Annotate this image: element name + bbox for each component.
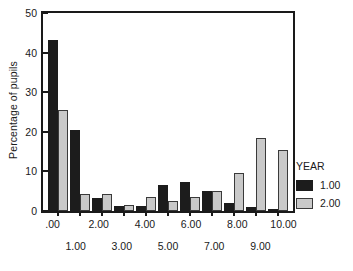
gray-swatch — [296, 198, 313, 209]
y-axis-tick-label: 20 — [3, 126, 43, 138]
bar-series-1-00 — [180, 182, 190, 211]
legend-entry: 2.00 — [296, 197, 353, 209]
y-axis-tick-label: 10 — [3, 165, 43, 177]
bar-groups — [43, 13, 293, 211]
bar-series-2-00 — [190, 197, 200, 211]
bar-series-1-00 — [202, 191, 212, 211]
x-axis-tick-label: 5.00 — [158, 240, 178, 252]
y-axis-tick-label: 50 — [3, 7, 43, 19]
bar-series-1-00 — [92, 198, 102, 211]
y-axis-tick-label: 40 — [3, 47, 43, 59]
x-axis-tick-labels: .001.002.003.004.005.006.007.008.009.001… — [41, 215, 295, 263]
x-axis-tick-label: .00 — [45, 218, 60, 230]
x-axis-tick-label: 4.00 — [135, 218, 155, 230]
plot-area: 01020304050 — [41, 11, 295, 213]
bar-series-2-00 — [124, 205, 134, 211]
bar-group — [113, 13, 135, 211]
bar-chart-figure: Percentage of pupils 01020304050 .001.00… — [0, 0, 353, 271]
bar-series-1-00 — [268, 209, 278, 211]
legend-entry-label: 2.00 — [320, 197, 340, 209]
x-axis-tick-label: 7.00 — [204, 240, 224, 252]
bar-group — [69, 13, 91, 211]
y-axis-tick-mark — [43, 91, 48, 93]
bar-group — [223, 13, 245, 211]
bar-series-1-00 — [48, 40, 58, 211]
bar-series-2-00 — [102, 194, 112, 211]
x-axis-tick-label: 1.00 — [65, 240, 85, 252]
x-axis-tick-label: 10.00 — [270, 218, 296, 230]
bar-series-2-00 — [58, 110, 68, 211]
bar-group — [245, 13, 267, 211]
legend-title: YEAR — [296, 160, 353, 172]
bar-series-1-00 — [224, 203, 234, 211]
legend: YEAR 1.002.00 — [296, 160, 353, 215]
bar-series-1-00 — [136, 206, 146, 211]
y-axis-tick-mark — [43, 131, 48, 133]
bar-series-2-00 — [168, 201, 178, 211]
bar-series-2-00 — [212, 191, 222, 211]
x-axis-tick-label: 6.00 — [181, 218, 201, 230]
legend-entry-label: 1.00 — [320, 179, 340, 191]
bar-series-1-00 — [70, 130, 80, 211]
y-axis-tick-mark — [43, 170, 48, 172]
bar-group — [135, 13, 157, 211]
bar-series-1-00 — [114, 206, 124, 211]
bar-group — [201, 13, 223, 211]
y-axis-tick-mark — [43, 210, 48, 212]
x-axis-tick-label: 3.00 — [112, 240, 132, 252]
bar-series-2-00 — [146, 197, 156, 211]
y-axis-tick-mark — [43, 12, 48, 14]
bar-group — [267, 13, 289, 211]
x-axis-tick-label: 2.00 — [89, 218, 109, 230]
bar-group — [179, 13, 201, 211]
bar-series-1-00 — [246, 207, 256, 211]
x-axis-tick-label: 9.00 — [250, 240, 270, 252]
bar-group — [91, 13, 113, 211]
legend-entries: 1.002.00 — [296, 179, 353, 209]
x-axis-tick-label: 8.00 — [227, 218, 247, 230]
y-axis-tick-label: 30 — [3, 86, 43, 98]
y-axis-tick-label: 0 — [3, 205, 43, 217]
black-swatch — [296, 180, 313, 191]
bar-series-2-00 — [234, 173, 244, 211]
legend-entry: 1.00 — [296, 179, 353, 191]
bar-series-1-00 — [158, 185, 168, 211]
bar-group — [157, 13, 179, 211]
bar-series-2-00 — [278, 150, 288, 211]
bar-series-2-00 — [256, 138, 266, 211]
bar-series-2-00 — [80, 194, 90, 211]
y-axis-tick-mark — [43, 52, 48, 54]
bar-group — [47, 13, 69, 211]
